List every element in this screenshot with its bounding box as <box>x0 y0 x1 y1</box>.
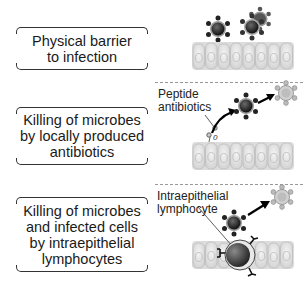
label-line: by locally produced <box>20 128 144 144</box>
arrow-icon <box>258 97 270 103</box>
antibiotic-killing-illustration: 0 <box>190 85 300 175</box>
bracket-top <box>16 27 148 34</box>
label-line: Physical barrier <box>32 33 132 49</box>
microbe-icon <box>206 16 230 43</box>
microbe-icon <box>222 210 246 237</box>
bracket-top <box>16 107 148 114</box>
dead-microbe-icon <box>271 185 293 210</box>
svg-text:0: 0 <box>213 133 218 142</box>
lymphocyte-killing-illustration <box>190 187 300 287</box>
label-line: Killing of microbes <box>20 112 144 128</box>
label-local-antibiotics: Killing of microbes by locally produced … <box>16 107 148 165</box>
bracket-bottom <box>16 63 148 70</box>
dead-microbe-icon <box>275 81 297 106</box>
epithelium <box>192 142 294 170</box>
label-line: by intraepithelial <box>23 235 141 251</box>
section-divider <box>155 82 303 83</box>
label-physical-barrier: Physical barrier to infection <box>16 27 148 70</box>
label-line: Killing of microbes <box>23 203 141 219</box>
bracket-bottom <box>16 265 148 272</box>
bracket-bottom <box>16 158 148 165</box>
microbes-at-barrier-illustration <box>190 5 300 80</box>
label-line: and infected cells <box>23 219 141 235</box>
bracket-top <box>16 197 148 204</box>
microbe-icon <box>234 93 258 120</box>
arrow-icon <box>248 205 264 215</box>
label-intraepithelial-lymphocytes: Killing of microbes and infected cells b… <box>16 197 148 272</box>
epithelium <box>192 42 294 70</box>
